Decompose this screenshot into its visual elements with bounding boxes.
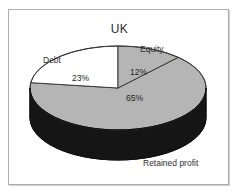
pie-stage: [0, 0, 239, 195]
slice-value-equity: 12%: [130, 67, 147, 77]
slice-value-debt: 23%: [72, 73, 89, 83]
slice-label-debt: Debt: [43, 55, 61, 65]
slice-label-equity: Equity: [140, 44, 164, 54]
slice-label-retained-profit: Retained profit: [143, 158, 198, 168]
pie-chart-figure: UK Equity Debt Retained profit 12% 23%: [0, 0, 239, 195]
pie-chart-svg: [0, 0, 239, 195]
slice-value-retained-profit: 65%: [126, 93, 143, 103]
